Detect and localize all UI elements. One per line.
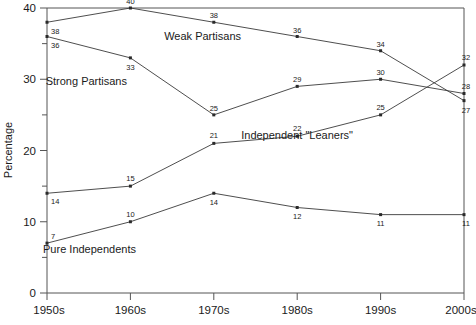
data-point-value-label: 36 [51, 41, 59, 50]
data-point-marker [212, 21, 215, 24]
y-tick-label: 20 [23, 145, 36, 157]
data-point-value-label: 36 [293, 26, 301, 35]
data-point-value-label: 30 [376, 68, 384, 77]
data-point-marker [46, 21, 49, 24]
data-point-marker [212, 113, 215, 116]
data-point-marker [129, 56, 132, 59]
data-point-marker [379, 78, 382, 81]
data-point-value-label: 32 [462, 53, 470, 62]
data-point-value-label: 38 [210, 11, 218, 20]
x-tick-label: 1980s [282, 304, 314, 316]
data-point-value-label: 14 [51, 197, 59, 206]
series-label-3: Independent "Leaners" [241, 129, 353, 141]
y-tick-label: 10 [23, 216, 36, 228]
data-point-value-label: 15 [126, 174, 134, 183]
data-point-value-label: 29 [293, 75, 301, 84]
x-tick-label: 1950s [33, 304, 65, 316]
series-annotations: Weak PartisansStrong PartisansIndependen… [43, 30, 353, 255]
data-point-marker [296, 206, 299, 209]
chart-figure: 010203040 1950s1960s1970s1980s1990s2000s… [0, 0, 476, 325]
y-tick-label: 40 [23, 2, 36, 14]
data-point-marker [463, 99, 466, 102]
data-point-marker [379, 213, 382, 216]
data-point-marker [296, 85, 299, 88]
data-point-value-label: 11 [377, 219, 385, 228]
data-point-marker [46, 35, 49, 38]
x-tick-label: 1960s [115, 304, 147, 316]
data-point-marker [296, 35, 299, 38]
data-point-marker [46, 192, 49, 195]
data-point-marker [379, 113, 382, 116]
data-point-marker [463, 213, 466, 216]
data-point-marker [129, 185, 132, 188]
data-point-marker [212, 142, 215, 145]
data-point-value-label: 14 [210, 198, 218, 207]
data-point-value-label: 40 [126, 0, 134, 6]
data-point-marker [212, 192, 215, 195]
x-axis-ticks: 1950s1960s1970s1980s1990s2000s [33, 293, 476, 316]
y-tick-label: 30 [23, 73, 36, 85]
y-tick-label: 0 [30, 287, 36, 299]
data-point-marker [379, 49, 382, 52]
x-tick-label: 1990s [365, 304, 397, 316]
data-point-marker [463, 64, 466, 67]
x-tick-label: 1970s [198, 304, 230, 316]
party-identification-line-chart: 010203040 1950s1960s1970s1980s1990s2000s… [0, 0, 476, 325]
series-line [47, 193, 464, 243]
series-label-4: Pure Independents [43, 243, 136, 255]
data-point-marker [463, 92, 466, 95]
data-point-marker [129, 7, 132, 10]
series-label-1: Weak Partisans [164, 30, 241, 42]
data-point-value-label: 7 [51, 232, 55, 241]
data-point-value-label: 25 [376, 103, 384, 112]
data-point-value-label: 10 [126, 210, 134, 219]
data-point-value-label: 38 [51, 27, 59, 36]
data-point-value-label: 12 [293, 212, 301, 221]
y-axis-title: Percentage [2, 122, 14, 178]
data-point-value-label: 27 [462, 106, 470, 115]
data-point-value-label: 28 [462, 82, 470, 91]
series-label-2: Strong Partisans [46, 75, 128, 87]
data-point-value-label: 21 [210, 131, 218, 140]
x-tick-label: 2000s [445, 304, 476, 316]
data-point-value-label: 25 [210, 104, 218, 113]
data-point-labels: 3840383634273633252930281415212225327101… [51, 0, 470, 241]
data-point-value-label: 34 [376, 40, 384, 49]
data-point-value-label: 33 [126, 63, 134, 72]
data-point-value-label: 11 [462, 219, 470, 228]
data-point-marker [129, 220, 132, 223]
data-series-group [46, 7, 466, 245]
